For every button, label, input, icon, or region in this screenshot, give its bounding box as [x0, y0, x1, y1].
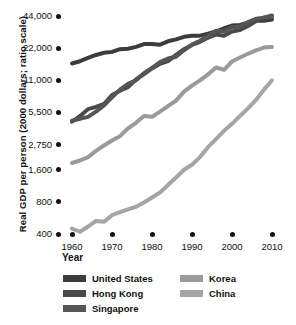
- x-tick-marker: [270, 232, 275, 237]
- x-tick-label: 1990: [175, 241, 209, 252]
- x-tick-marker: [70, 232, 75, 237]
- y-tick-label: 1,600: [8, 164, 52, 175]
- legend-label: Singapore: [92, 303, 138, 314]
- legend-swatch: [63, 275, 86, 282]
- x-tick-label: 1960: [55, 241, 89, 252]
- plot-area: [66, 6, 284, 238]
- x-tick-marker: [190, 232, 195, 237]
- legend-swatch: [180, 290, 203, 297]
- x-tick-label: 2010: [255, 241, 289, 252]
- legend-column: United StatesHong KongSingapore: [63, 272, 153, 317]
- series-lines: [66, 6, 284, 238]
- chart-figure: Real GDP per person (2000 dollars; ratio…: [0, 0, 296, 325]
- y-tick-label: 2,750: [8, 139, 52, 150]
- legend-label: Korea: [209, 273, 236, 284]
- legend-label: China: [209, 288, 235, 299]
- y-tick-label: 400: [8, 228, 52, 239]
- y-tick-marker: [56, 110, 61, 115]
- y-tick-label: 800: [8, 196, 52, 207]
- legend-item[interactable]: United States: [63, 272, 153, 285]
- x-axis-title: Year: [62, 252, 83, 263]
- legend-item[interactable]: Korea: [180, 272, 236, 285]
- legend-column: KoreaChina: [180, 272, 236, 302]
- y-tick-label: 5,500: [8, 106, 52, 117]
- y-tick-marker: [56, 232, 61, 237]
- legend-item[interactable]: Hong Kong: [63, 287, 153, 300]
- legend-item[interactable]: China: [180, 287, 236, 300]
- x-tick-marker: [150, 232, 155, 237]
- y-tick-marker: [56, 14, 61, 19]
- legend-label: Hong Kong: [92, 288, 143, 299]
- y-tick-label: 22,000: [8, 42, 52, 53]
- x-tick-label: 1980: [135, 241, 169, 252]
- y-tick-marker: [56, 78, 61, 83]
- y-tick-marker: [56, 46, 61, 51]
- legend-swatch: [63, 290, 86, 297]
- x-tick-marker: [230, 232, 235, 237]
- y-tick-marker: [56, 167, 61, 172]
- y-tick-label: 44,000: [8, 10, 52, 21]
- legend-swatch: [180, 275, 203, 282]
- x-tick-marker: [110, 232, 115, 237]
- legend-label: United States: [92, 273, 153, 284]
- legend-swatch: [63, 305, 86, 312]
- x-tick-label: 1970: [95, 241, 129, 252]
- y-tick-marker: [56, 199, 61, 204]
- legend-item[interactable]: Singapore: [63, 302, 153, 315]
- chart-legend: United StatesHong KongSingaporeKoreaChin…: [63, 272, 288, 314]
- x-tick-label: 2000: [215, 241, 249, 252]
- y-tick-marker: [56, 142, 61, 147]
- y-tick-label: 11,000: [8, 74, 52, 85]
